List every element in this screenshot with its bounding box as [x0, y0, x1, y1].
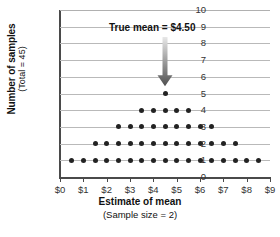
data-dot: [174, 141, 179, 146]
data-dot: [139, 124, 144, 129]
data-dot: [233, 158, 238, 163]
y-axis-title: Number of samples (Total = 45): [6, 0, 40, 139]
data-dot: [104, 158, 109, 163]
true-mean-arrow-icon: [155, 37, 175, 89]
x-tick-label-2: $2: [95, 185, 119, 195]
data-dot: [186, 108, 191, 113]
data-dot: [116, 158, 121, 163]
data-dot: [221, 141, 226, 146]
x-tick-3: [130, 177, 131, 182]
gridline-y-10: [60, 10, 270, 11]
data-dot: [151, 141, 156, 146]
x-tick-label-3: $3: [118, 185, 142, 195]
data-dot: [174, 108, 179, 113]
x-tick-6: [200, 177, 201, 182]
data-dot: [163, 91, 168, 96]
data-dot: [116, 124, 121, 129]
data-dot: [186, 158, 191, 163]
data-dot: [163, 158, 168, 163]
data-dot: [81, 158, 86, 163]
data-dot: [139, 158, 144, 163]
data-dot: [209, 141, 214, 146]
x-tick-label-4: $4: [141, 185, 165, 195]
y-axis-title-sub: (Total = 45): [17, 0, 27, 139]
data-dot: [174, 124, 179, 129]
y-tick-label-0: 0: [190, 172, 206, 182]
y-tick-label-8: 8: [190, 38, 206, 48]
y-tick-label-6: 6: [190, 72, 206, 82]
x-tick-8: [247, 177, 248, 182]
x-tick-label-0: $0: [48, 185, 72, 195]
x-tick-7: [223, 177, 224, 182]
data-dot: [139, 108, 144, 113]
data-dot: [233, 141, 238, 146]
data-dot: [128, 158, 133, 163]
data-dot: [209, 124, 214, 129]
data-dot: [174, 158, 179, 163]
x-tick-label-9: $9: [258, 185, 280, 195]
data-dot: [163, 124, 168, 129]
data-dot: [116, 141, 121, 146]
x-tick-4: [153, 177, 154, 182]
data-dot: [128, 124, 133, 129]
true-mean-annotation-label: True mean = $4.50: [109, 23, 195, 33]
x-tick-0: [60, 177, 61, 182]
data-dot: [209, 158, 214, 163]
y-axis-title-main: Number of samples: [6, 0, 17, 139]
data-dot: [256, 158, 261, 163]
data-dot: [93, 141, 98, 146]
data-dot: [186, 141, 191, 146]
data-dot: [151, 108, 156, 113]
x-tick-5: [177, 177, 178, 182]
data-dot: [198, 141, 203, 146]
y-tick-label-10: 10: [190, 5, 206, 15]
x-tick-1: [83, 177, 84, 182]
x-tick-label-1: $1: [71, 185, 95, 195]
data-dot: [163, 108, 168, 113]
dot-plot-chart: Number of samples (Total = 45) 012345678…: [0, 0, 280, 237]
x-tick-label-7: $7: [211, 185, 235, 195]
x-tick-label-5: $5: [165, 185, 189, 195]
x-tick-9: [270, 177, 271, 182]
data-dot: [244, 158, 249, 163]
data-dot: [151, 124, 156, 129]
x-tick-2: [107, 177, 108, 182]
x-axis-title-sub: (Sample size = 2): [0, 209, 280, 221]
data-dot: [139, 141, 144, 146]
plot-area: 012345678910 $0$1$2$3$4$5$6$7$8$9 True m…: [60, 10, 270, 177]
data-dot: [128, 141, 133, 146]
data-dot: [93, 158, 98, 163]
data-dot: [198, 158, 203, 163]
data-dot: [198, 124, 203, 129]
data-dot: [221, 158, 226, 163]
y-tick-label-5: 5: [190, 89, 206, 99]
data-dot: [163, 141, 168, 146]
data-dot: [104, 141, 109, 146]
x-axis-line: [59, 177, 270, 179]
data-dot: [69, 158, 74, 163]
x-axis-title-main: Estimate of mean: [0, 196, 280, 209]
y-tick-label-7: 7: [190, 55, 206, 65]
x-axis-title: Estimate of mean (Sample size = 2): [0, 196, 280, 220]
y-tick-label-4: 4: [190, 105, 206, 115]
x-tick-label-6: $6: [188, 185, 212, 195]
data-dot: [151, 158, 156, 163]
x-tick-label-8: $8: [235, 185, 259, 195]
